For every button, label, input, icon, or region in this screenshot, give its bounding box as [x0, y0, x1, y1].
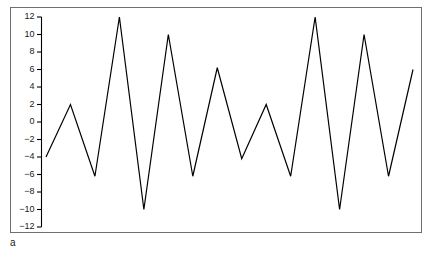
y-axis-tick-label: 8	[29, 47, 34, 56]
figure-panel: 121086420−2−4−6−8−10−12 a	[0, 0, 432, 255]
y-axis-tick-label: 2	[29, 100, 34, 109]
y-axis-tick-label: −10	[19, 205, 34, 214]
data-line	[46, 17, 413, 210]
y-axis-tick-label: −8	[24, 187, 34, 196]
y-axis-tick-label: −4	[24, 152, 34, 161]
y-axis-tick-label: 0	[29, 117, 34, 126]
y-axis-tick-label: −12	[19, 222, 34, 231]
y-axis-tick-label: 12	[24, 12, 34, 21]
plot-svg	[0, 0, 432, 255]
y-axis-tick-label: 10	[24, 30, 34, 39]
data-line-series	[46, 17, 413, 210]
y-axis-tick-label: −6	[24, 170, 34, 179]
y-axis-tick-label: −2	[24, 135, 34, 144]
y-axis-tick-label: 6	[29, 65, 34, 74]
panel-label: a	[10, 237, 16, 248]
y-axis-tick-label: 4	[29, 82, 34, 91]
y-axis	[37, 17, 42, 227]
